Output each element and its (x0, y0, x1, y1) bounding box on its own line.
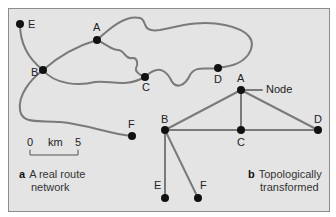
caption-b: bTopologically transformed (248, 168, 322, 194)
scale-unit: km (48, 137, 63, 148)
label-a-E: E (28, 19, 35, 30)
caption-a-letter: a (19, 168, 25, 180)
caption-a-line1: A real route (29, 168, 85, 180)
scale-bar (30, 150, 78, 155)
route-e-b (20, 24, 43, 70)
route-b-c-lower (43, 70, 145, 84)
caption-b-line2: transformed (260, 181, 319, 193)
route-b-f (20, 70, 132, 136)
route-c-d (145, 68, 218, 86)
caption-a: aA real route network (19, 168, 85, 194)
node-a-F (128, 132, 136, 140)
node-a-B (39, 66, 47, 74)
node-b-F (194, 194, 202, 202)
label-b-F: F (200, 180, 207, 191)
scale-end: 5 (75, 137, 81, 148)
label-a-D: D (214, 74, 222, 85)
node-a-D (214, 64, 222, 72)
edge-a-d (241, 90, 318, 130)
node-b-C (237, 126, 245, 134)
edge-b-f (165, 130, 198, 198)
node-a-A (93, 36, 101, 44)
label-a-B: B (31, 67, 38, 78)
node-b-D (314, 126, 322, 134)
caption-b-line1: Topologically (259, 168, 322, 180)
label-b-D: D (314, 114, 322, 125)
node-b-A (237, 86, 245, 94)
route-b-a (43, 40, 97, 70)
node-a-C (141, 73, 149, 81)
node-b-E (161, 194, 169, 202)
label-a-A: A (93, 22, 100, 33)
label-b-E: E (154, 180, 161, 191)
node-callout-label: Node (266, 84, 292, 95)
label-b-B: B (161, 114, 168, 125)
label-a-F: F (128, 119, 135, 130)
route-a-loop-top (97, 18, 252, 68)
label-b-A: A (237, 73, 244, 84)
label-a-C: C (142, 82, 150, 93)
node-b-B (161, 126, 169, 134)
route-a-c-wiggly (97, 40, 145, 77)
caption-a-line2: network (31, 181, 70, 193)
scale-start: 0 (27, 137, 33, 148)
label-b-C: C (237, 137, 245, 148)
node-a-E (16, 20, 24, 28)
edge-a-b (165, 90, 241, 130)
caption-b-letter: b (248, 168, 255, 180)
